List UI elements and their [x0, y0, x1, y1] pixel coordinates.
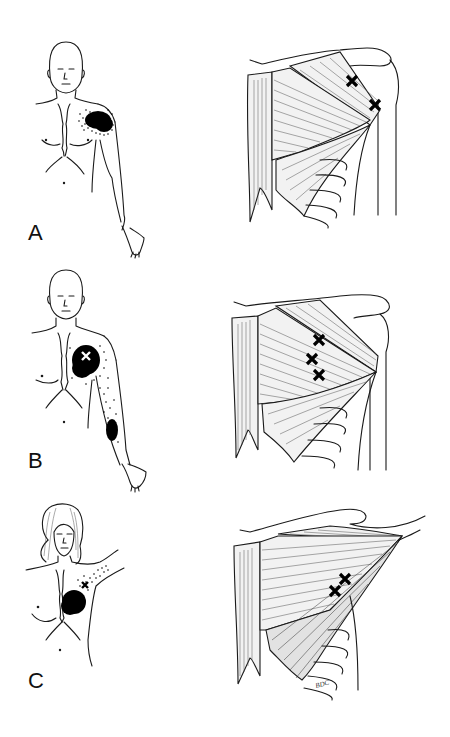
muscle-diagram-b [220, 280, 450, 500]
panel-b: B [0, 260, 450, 500]
panel-label-c: C [28, 670, 44, 692]
body-figure-c [0, 490, 200, 737]
pain-area-c [61, 565, 109, 615]
panel-label-b: B [28, 450, 43, 472]
muscle-diagram-c: BDC [220, 500, 450, 730]
panel-c: BDC C [0, 490, 450, 737]
pain-area-a [78, 109, 114, 136]
pain-area-b [69, 345, 119, 443]
panel-label-a: A [28, 222, 43, 244]
signature: BDC [314, 678, 330, 689]
panel-a: A [0, 0, 450, 260]
muscle-diagram-a [220, 30, 450, 260]
